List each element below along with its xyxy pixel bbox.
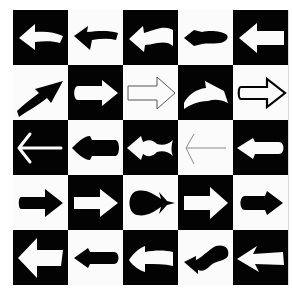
arrow-left-icon xyxy=(15,12,67,64)
cell-r4-c2 xyxy=(123,230,178,285)
arrow-left-icon xyxy=(125,12,177,64)
cell-r2-c2 xyxy=(123,120,178,175)
cell-r0-c3 xyxy=(178,10,233,65)
arrow-right-icon xyxy=(235,177,287,229)
arrow-right-icon xyxy=(70,177,122,229)
arrow-left-icon xyxy=(125,232,177,284)
arrow-right-icon xyxy=(125,67,177,119)
cell-r1-c1 xyxy=(68,65,123,120)
arrow-right-icon xyxy=(180,67,232,119)
arrow-right-icon xyxy=(125,177,177,229)
arrow-left-icon xyxy=(180,12,232,64)
cell-r1-c2 xyxy=(123,65,178,120)
cell-r1-c3 xyxy=(178,65,233,120)
cell-r3-c4 xyxy=(233,175,288,230)
cell-r4-c4 xyxy=(233,230,288,285)
arrow-left-icon xyxy=(15,232,67,284)
cell-r3-c0 xyxy=(13,175,68,230)
arrow-left-icon xyxy=(235,12,287,64)
cell-r1-c0 xyxy=(13,65,68,120)
cell-r3-c3 xyxy=(178,175,233,230)
cell-r0-c0 xyxy=(13,10,68,65)
arrow-right-icon xyxy=(180,177,232,229)
arrow-grid xyxy=(13,10,289,285)
arrow-left-icon xyxy=(180,122,232,174)
cell-r4-c3 xyxy=(178,230,233,285)
cell-r4-c0 xyxy=(13,230,68,285)
arrow-left-icon xyxy=(125,122,177,174)
cell-r0-c2 xyxy=(123,10,178,65)
cell-r3-c2 xyxy=(123,175,178,230)
arrow-left-icon xyxy=(180,232,232,284)
arrow-left-icon xyxy=(235,232,287,284)
cell-r2-c1 xyxy=(68,120,123,175)
cell-r2-c0 xyxy=(13,120,68,175)
arrow-up-right-icon xyxy=(15,67,67,119)
cell-r0-c4 xyxy=(233,10,288,65)
cell-r0-c1 xyxy=(68,10,123,65)
arrow-right-icon xyxy=(70,67,122,119)
cell-r2-c3 xyxy=(178,120,233,175)
arrow-left-icon xyxy=(70,232,122,284)
arrow-right-icon xyxy=(235,67,287,119)
arrow-left-icon xyxy=(15,122,67,174)
cell-r4-c1 xyxy=(68,230,123,285)
arrow-left-icon xyxy=(70,122,122,174)
cell-r1-c4 xyxy=(233,65,288,120)
cell-r3-c1 xyxy=(68,175,123,230)
arrow-left-icon xyxy=(70,12,122,64)
arrow-left-icon xyxy=(235,122,287,174)
cell-r2-c4 xyxy=(233,120,288,175)
arrow-right-icon xyxy=(15,177,67,229)
